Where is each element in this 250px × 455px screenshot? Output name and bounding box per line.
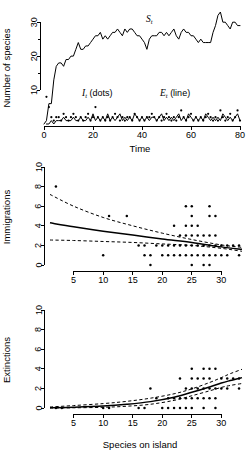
svg-text:4: 4 (34, 366, 44, 371)
immigration-events-dots (45, 96, 241, 122)
species-x-axis: 020406080 (41, 126, 245, 140)
immigrations-y-axis: 0246810 (34, 162, 45, 268)
svg-text:30: 30 (216, 418, 226, 428)
svg-text:8: 8 (34, 327, 44, 332)
panel-extinctions: 0246810 51015202530 Extinctions Species … (0, 298, 250, 455)
extinctions-fit-line (50, 378, 242, 408)
extinctions-scatter-points (55, 368, 241, 410)
svg-text:15: 15 (128, 418, 138, 428)
immigrations-upper-ci (50, 194, 242, 247)
immigrations-fit-line (50, 223, 242, 249)
svg-text:0: 0 (41, 130, 46, 140)
figure-container: 102030 020406080 St It (dots) Et (line) … (0, 0, 250, 455)
svg-text:2: 2 (34, 243, 44, 248)
svg-text:20: 20 (157, 418, 167, 428)
svg-text:25: 25 (187, 418, 197, 428)
svg-text:4: 4 (34, 223, 44, 228)
annotation-st: St (146, 14, 153, 25)
species-y-axis: 102030 (30, 17, 41, 95)
svg-text:6: 6 (34, 204, 44, 209)
svg-text:2: 2 (34, 386, 44, 391)
svg-text:80: 80 (235, 130, 245, 140)
immigrations-plot-svg: 0246810 51015202530 Immigrations (0, 155, 250, 300)
immigrations-scatter-points (55, 185, 241, 266)
svg-text:60: 60 (186, 130, 196, 140)
svg-text:0: 0 (34, 262, 44, 267)
extinctions-y-axis-title: Extinctions (1, 337, 12, 383)
svg-text:5: 5 (71, 418, 76, 428)
extinction-events-line (46, 114, 240, 124)
extinctions-x-axis-title: Species on island (103, 439, 177, 450)
annotation-it: It (dots) (81, 88, 113, 99)
svg-text:10: 10 (34, 162, 44, 172)
svg-text:30: 30 (216, 275, 226, 285)
panel-immigrations: 0246810 51015202530 Immigrations (0, 155, 250, 300)
svg-text:10: 10 (98, 418, 108, 428)
svg-text:20: 20 (157, 275, 167, 285)
svg-text:10: 10 (30, 85, 40, 95)
species-y-axis-title: Number of species (1, 28, 12, 107)
species-plot-svg: 102030 020406080 St It (dots) Et (line) … (0, 0, 250, 158)
panel-number-of-species: 102030 020406080 St It (dots) Et (line) … (0, 0, 250, 158)
svg-text:5: 5 (71, 275, 76, 285)
immigrations-y-axis-title: Immigrations (1, 190, 12, 245)
extinctions-y-axis: 0246810 (34, 305, 45, 411)
immigrations-x-axis: 51015202530 (71, 271, 226, 285)
svg-text:25: 25 (187, 275, 197, 285)
annotation-et: Et (line) (159, 88, 190, 99)
svg-text:10: 10 (98, 275, 108, 285)
svg-text:20: 20 (88, 130, 98, 140)
svg-text:10: 10 (34, 305, 44, 315)
extinctions-plot-svg: 0246810 51015202530 Extinctions Species … (0, 298, 250, 455)
svg-text:40: 40 (137, 130, 147, 140)
extinctions-x-axis: 51015202530 (71, 414, 226, 428)
svg-text:8: 8 (34, 184, 44, 189)
species-richness-line (44, 12, 240, 124)
svg-text:6: 6 (34, 347, 44, 352)
svg-text:20: 20 (30, 51, 40, 61)
svg-text:0: 0 (34, 405, 44, 410)
svg-text:15: 15 (128, 275, 138, 285)
extinctions-lower-ci (50, 384, 242, 409)
extinctions-upper-ci (50, 369, 242, 407)
svg-text:30: 30 (30, 17, 40, 27)
species-x-axis-title: Time (130, 143, 151, 154)
